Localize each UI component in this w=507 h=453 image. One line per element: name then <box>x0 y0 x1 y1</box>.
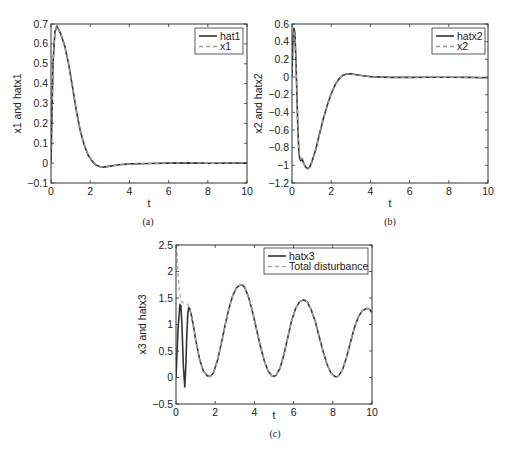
x-tick-label: 4 <box>367 185 373 197</box>
y-tick-label: −0.2 <box>268 88 289 100</box>
y-tick-label: −1 <box>277 159 289 171</box>
y-axis-label: x1 and hatx1 <box>11 73 23 133</box>
legend: hat1x1 <box>195 28 243 54</box>
y-tick-label: 0.7 <box>33 18 48 30</box>
x-tick-label: 10 <box>482 185 494 197</box>
y-tick-label: −0.5 <box>152 398 173 410</box>
y-tick-label: −0.6 <box>268 124 289 136</box>
y-tick-label: 0 <box>167 371 173 383</box>
y-tick-label: 0.5 <box>158 345 173 357</box>
x-tick-label: 4 <box>251 406 257 418</box>
figure: 0246810−0.100.10.20.30.40.50.60.7tx1 and… <box>0 0 507 453</box>
y-tick-label: 0.1 <box>33 137 48 149</box>
x-tick-label: 2 <box>328 185 334 197</box>
chart-panel-b: 0246810−1.2−1−0.8−0.6−0.4−0.200.20.40.6t… <box>252 18 494 229</box>
y-tick-label: 0.2 <box>274 53 289 65</box>
y-axis-label: x2 and hatx2 <box>252 73 264 133</box>
y-tick-label: 0 <box>283 71 289 83</box>
y-tick-label: −0.1 <box>27 177 48 189</box>
y-axis-label: x3 and hatx3 <box>136 294 148 354</box>
figure-caption: (a) <box>142 216 153 228</box>
legend-entry-label: x2 <box>457 40 468 52</box>
x-axis-label: t <box>273 409 276 421</box>
x-tick-label: 6 <box>166 185 172 197</box>
legend-entry-label: Total disturbance <box>289 260 369 272</box>
x-tick-label: 0 <box>173 406 179 418</box>
x-tick-label: 8 <box>446 185 452 197</box>
x-tick-label: 0 <box>48 185 54 197</box>
figure-caption: (b) <box>384 216 396 228</box>
legend: hatx2x2 <box>432 28 485 54</box>
y-tick-label: 0.4 <box>274 35 289 47</box>
y-tick-label: 0.6 <box>274 18 289 30</box>
x-axis-label: t <box>389 197 392 209</box>
y-tick-label: 2.5 <box>158 239 173 251</box>
chart-panel-a: 0246810−0.100.10.20.30.40.50.60.7tx1 and… <box>11 18 253 229</box>
x-tick-label: 6 <box>291 406 297 418</box>
y-tick-label: −1.2 <box>268 177 289 189</box>
x-tick-label: 0 <box>289 185 295 197</box>
x-axis-label: t <box>148 197 151 209</box>
y-tick-label: 0.2 <box>33 117 48 129</box>
x-tick-label: 4 <box>126 185 132 197</box>
y-tick-label: 1.5 <box>158 292 173 304</box>
x-tick-label: 8 <box>330 406 336 418</box>
legend: hatx3Total disturbance <box>264 248 369 274</box>
x-tick-label: 6 <box>407 185 413 197</box>
y-tick-label: 0.4 <box>33 77 48 89</box>
y-tick-label: 0 <box>42 157 48 169</box>
series-line-hatx3 <box>176 285 372 387</box>
y-tick-label: 0.5 <box>33 57 48 69</box>
y-tick-label: 1 <box>167 318 173 330</box>
x-tick-label: 2 <box>87 185 93 197</box>
legend-entry-label: x1 <box>220 40 231 52</box>
y-tick-label: −0.4 <box>268 106 289 118</box>
x-tick-label: 10 <box>241 185 253 197</box>
x-tick-label: 10 <box>366 406 378 418</box>
chart-panel-c: 0246810−0.500.511.522.5tx3 and hatx3(c)h… <box>136 239 378 441</box>
figure-caption: (c) <box>269 428 280 440</box>
x-tick-label: 2 <box>212 406 218 418</box>
y-tick-label: 0.6 <box>33 37 48 49</box>
y-tick-label: 2 <box>167 265 173 277</box>
y-tick-label: −0.8 <box>268 141 289 153</box>
x-tick-label: 8 <box>205 185 211 197</box>
y-tick-label: 0.3 <box>33 97 48 109</box>
